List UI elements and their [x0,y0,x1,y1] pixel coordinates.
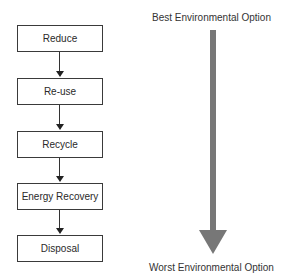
worst-option-label: Worst Environmental Option [149,262,274,273]
scale-arrow-icon [0,0,291,280]
